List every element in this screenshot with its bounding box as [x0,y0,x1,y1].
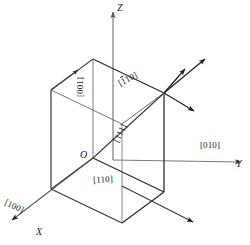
direction-110-digits: 110 [96,174,110,185]
bottom-diagonal-extension-arrow [122,186,193,222]
direction-010-close: ] [217,140,220,150]
direction-label-110: [110] [93,175,113,185]
cube-edge-depth-top-right [122,93,164,124]
direction-010-digits: 010 [203,140,217,150]
figure-root: Z Y X O [010] [100] [001] [110] [111] [1… [0,0,250,245]
direction-arrow-lower-right [164,93,194,111]
cube-edge-back-top [51,90,122,124]
direction-001-close: ] [75,77,85,80]
cube-edge-depth-bottom-left [51,158,93,189]
top-face-diagonal-arrow [51,70,78,90]
z-axis-label: Z [117,3,123,13]
direction-label-010: [010] [200,141,220,150]
direction-arrow-upper-right [164,59,205,93]
direction-001-open: [ [75,94,85,97]
direction-110-close: ] [110,174,114,184]
y-axis-line [113,160,241,162]
y-axis-label: Y [236,159,242,169]
x-axis-label: X [36,227,42,237]
direction-label-001: [001] [76,77,85,97]
origin-label: O [80,150,87,160]
direction-001-digits: 001 [75,80,85,94]
direction-arrow-cluster [164,59,205,111]
unit-cell-drawing [0,0,250,245]
cube-edge-back-bottom [51,189,122,223]
direction-arrow-upper-left [164,69,185,93]
